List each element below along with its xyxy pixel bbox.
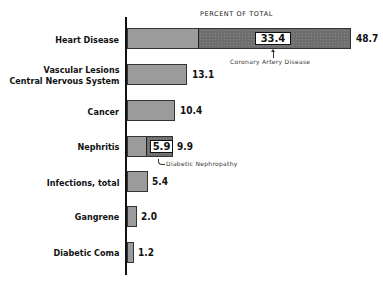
bar-segment-other [128,137,146,156]
bar-segment [128,65,186,84]
category-label-infections: Infections, total [46,177,119,188]
bar-cancer [127,100,175,121]
label-line-1: Vascular Lesions [9,64,119,75]
bar-segment-diabetic-nephropathy: 5.9 [146,137,172,156]
axis-title: PERCENT OF TOTAL [200,10,273,18]
bar-heart-disease: 33.4 [127,28,351,49]
value-label-cancer: 10.4 [180,105,202,116]
value-label-diabetic-coma: 1.2 [138,247,154,258]
bar-segment [128,101,174,120]
sub-value-label: 5.9 [150,140,173,153]
category-label-vascular-lesions: Vascular Lesions Central Nervous System [9,64,119,86]
bar-segment [128,207,136,226]
bar-segment [128,172,147,191]
bar-segment-other [128,29,198,48]
label-line-2: Central Nervous System [9,75,119,86]
bar-nephritis: 5.9 [127,136,173,157]
value-label-gangrene: 2.0 [141,211,157,222]
value-label-vascular-lesions: 13.1 [192,69,214,80]
category-label-nephritis: Nephritis [77,141,119,152]
bar-vascular-lesions [127,64,187,85]
bar-segment-coronary-artery-disease: 33.4 [198,29,350,48]
bar-infections [127,171,148,192]
annotation-diabetic-nephropathy: Diabetic Nephropathy [166,160,238,167]
value-label-infections: 5.4 [152,176,168,187]
value-label-nephritis: 9.9 [177,141,193,152]
value-label-heart-disease: 48.7 [356,33,378,44]
sub-value-label: 33.4 [255,32,291,45]
category-label-gangrene: Gangrene [75,211,119,222]
bar-diabetic-coma [127,242,134,263]
category-label-diabetic-coma: Diabetic Coma [53,247,119,258]
bar-segment [128,243,133,262]
annotation-pointer [158,159,165,165]
bar-gangrene [127,206,137,227]
category-label-cancer: Cancer [88,106,119,117]
annotation-coronary-artery-disease: Coronary Artery Disease [230,58,310,65]
category-label-heart-disease: Heart Disease [55,34,119,45]
